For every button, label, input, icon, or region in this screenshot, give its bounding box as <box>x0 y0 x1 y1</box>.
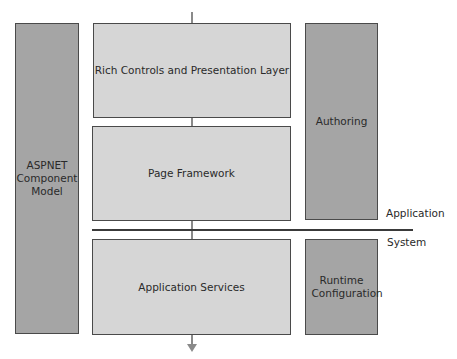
runtime-configuration-box: Runtime Configuration <box>305 239 378 335</box>
rich-controls-box: Rich Controls and Presentation Layer <box>93 23 291 118</box>
rich-controls-label: Rich Controls and Presentation Layer <box>95 64 289 77</box>
application-layer-label: Application <box>386 207 445 219</box>
application-services-label: Application Services <box>138 281 244 294</box>
down-arrow-icon <box>187 344 197 352</box>
aspnet-component-model-box: ASPNET Component Model <box>15 23 79 334</box>
bottom-connector <box>191 334 193 344</box>
aspnet-component-model-label: ASPNET Component Model <box>14 159 81 198</box>
application-services-box: Application Services <box>92 239 291 335</box>
authoring-box: Authoring <box>305 23 378 220</box>
runtime-configuration-label: Runtime Configuration <box>312 274 372 300</box>
page-framework-box: Page Framework <box>92 126 291 221</box>
authoring-label: Authoring <box>316 115 368 128</box>
page-framework-label: Page Framework <box>148 167 235 180</box>
system-layer-label: System <box>387 236 426 248</box>
layer-separator-line <box>92 229 413 231</box>
